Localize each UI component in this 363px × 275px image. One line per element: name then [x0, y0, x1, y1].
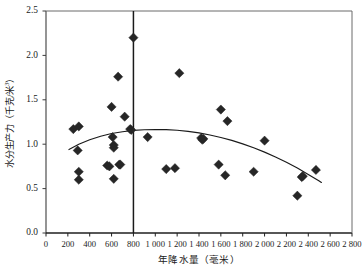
scatter-marker — [162, 164, 171, 173]
axis-frame — [46, 11, 352, 233]
scatter-marker — [74, 175, 83, 184]
scatter-marker — [249, 167, 258, 176]
scatter-marker — [223, 117, 232, 126]
scatter-marker — [221, 171, 230, 180]
trend-curve — [69, 129, 321, 182]
scatter-marker — [293, 191, 302, 200]
scatter-marker — [73, 146, 82, 155]
scatter-marker — [216, 105, 225, 114]
scatter-marker — [109, 174, 118, 183]
scatter-marker — [175, 69, 184, 78]
scatter-points — [69, 33, 321, 200]
scatter-marker — [114, 72, 123, 81]
scatter-marker — [129, 33, 138, 42]
scatter-marker — [170, 164, 179, 173]
chart-figure: 水分生产力（千克/米3） 0.00.51.01.52.02.5 02004006… — [0, 0, 363, 275]
scatter-marker — [143, 132, 152, 141]
scatter-marker — [116, 160, 125, 169]
quadratic-fit-line — [69, 129, 321, 182]
scatter-marker — [311, 165, 320, 174]
plot-area — [0, 0, 363, 275]
scatter-marker — [107, 102, 116, 111]
scatter-marker — [214, 160, 223, 169]
scatter-marker — [260, 136, 269, 145]
scatter-marker — [120, 112, 129, 121]
